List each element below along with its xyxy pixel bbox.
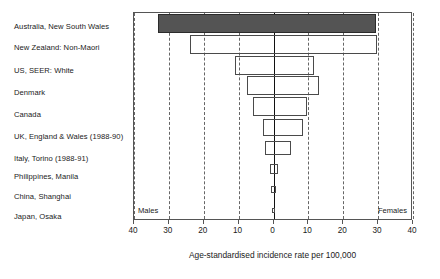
bar-row [265, 141, 291, 155]
category-label: Japan, Osaka [14, 212, 61, 221]
chart-container: Australia, New South Wales New Zealand: … [0, 0, 440, 279]
tick-mark [377, 220, 378, 224]
tick-mark [342, 220, 343, 224]
category-label: Canada [14, 110, 41, 119]
category-label: New Zealand: Non-Maori [14, 43, 100, 52]
category-label: China, Shanghai [14, 192, 71, 201]
category-label: Denmark [14, 88, 45, 97]
category-label: Australia, New South Wales [14, 22, 109, 31]
tick-mark [238, 220, 239, 224]
bar-row [263, 119, 303, 136]
tick-label: 40 [407, 226, 416, 235]
tick-label: 30 [163, 226, 172, 235]
x-axis-title: Age-standardised incidence rate per 100,… [133, 250, 412, 260]
plot-area: Males Females [133, 12, 412, 220]
males-side-label: Males [138, 206, 158, 215]
bar-row [158, 14, 376, 33]
bar-row [272, 208, 275, 213]
bar-row [270, 164, 278, 174]
tick-label: 10 [233, 226, 242, 235]
tick-mark [203, 220, 204, 224]
category-label: Italy, Torino (1988-91) [14, 154, 88, 163]
females-side-label: Females [378, 206, 407, 215]
gridline [134, 13, 135, 219]
gridline [378, 13, 379, 219]
tick-mark [133, 220, 134, 224]
tick-mark [307, 220, 308, 224]
tick-label: 40 [128, 226, 137, 235]
tick-mark [168, 220, 169, 224]
bar-row [190, 35, 378, 54]
bar-row [271, 186, 276, 193]
bar-row [253, 97, 307, 116]
gridline [169, 13, 170, 219]
tick-label: 0 [270, 226, 275, 235]
tick-label: 10 [303, 226, 312, 235]
tick-mark [412, 220, 413, 224]
category-label: UK, England & Wales (1988-90) [14, 132, 123, 141]
tick-label: 20 [198, 226, 207, 235]
tick-label: 30 [373, 226, 382, 235]
tick-mark [273, 220, 274, 224]
tick-label: 20 [338, 226, 347, 235]
bar-row [247, 76, 318, 95]
bar-row [235, 56, 314, 75]
gridline [413, 13, 414, 219]
category-label: Philippines, Manila [14, 172, 78, 181]
category-label: US, SEER: White [14, 66, 74, 75]
